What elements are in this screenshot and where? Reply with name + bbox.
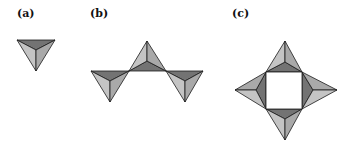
tetrahedra-diagram (0, 0, 347, 154)
panel-a-tetrahedron (17, 40, 55, 71)
panel-c-central-square (266, 72, 302, 109)
panel-c-top-tetrahedron (266, 41, 302, 72)
panel-b-left-tetrahedron (91, 71, 129, 102)
panel-c-left-tetrahedron (235, 72, 266, 109)
panel-c-right-tetrahedron (302, 72, 337, 109)
panel-b-middle-tetrahedron (129, 41, 166, 71)
panel-c-bottom-tetrahedron (266, 109, 302, 140)
panel-b-right-tetrahedron (166, 71, 203, 102)
